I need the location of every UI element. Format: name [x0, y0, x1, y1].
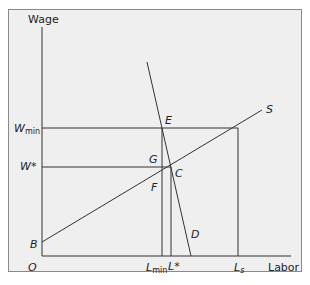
origin-label: O: [28, 261, 37, 274]
labor-market-diagram: Wage Labor O Wmin W* Lmin L* Ls E G C F …: [0, 0, 310, 285]
demand-label: D: [191, 228, 199, 241]
wstar-label: W*: [20, 160, 37, 173]
point-g-label: G: [149, 153, 158, 166]
supply-curve: [42, 110, 262, 242]
wmin-label: Wmin: [14, 122, 40, 136]
point-b-label: B: [30, 238, 38, 251]
ls-label: Ls: [234, 261, 244, 275]
lmin-label: Lmin: [146, 261, 167, 275]
y-axis-label: Wage: [28, 13, 59, 26]
x-axis-label: Labor: [268, 261, 300, 274]
lstar-label: L*: [168, 260, 180, 273]
point-c-label: C: [175, 167, 183, 180]
point-e-label: E: [165, 114, 172, 127]
supply-label: S: [266, 103, 273, 116]
point-f-label: F: [151, 181, 158, 194]
